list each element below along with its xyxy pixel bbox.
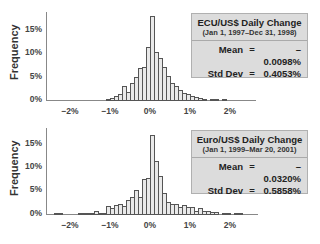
y-tick-15: 15% — [16, 24, 42, 34]
y-tick-10: 10% — [16, 161, 42, 171]
x-tick-2: 2% — [215, 220, 245, 230]
euro-histogram-panel: Frequency 15% 10% 5% 0% −2% −1% 0% 1% 2%… — [0, 116, 320, 238]
histogram-bar — [202, 99, 207, 102]
stddev-row: Std Dev = 0.4053% — [198, 68, 301, 80]
stats-legend: ECU/US$ Daily Change (Jan 1, 1997–Dec 31… — [191, 13, 308, 78]
x-tick-0: 0% — [135, 106, 165, 116]
equals-sign: = — [243, 68, 261, 80]
equals-sign: = — [243, 185, 261, 197]
mean-value: – 0.0320% — [261, 161, 301, 185]
stddev-label: Std Dev — [199, 68, 243, 80]
mean-label: Mean — [199, 161, 243, 185]
histogram-bar — [58, 213, 63, 216]
x-tick-1: 1% — [175, 220, 205, 230]
ecu-histogram-panel: Frequency 15% 10% 5% 0% −2% −1% 0% 1% 2%… — [0, 0, 320, 122]
mean-row: Mean = – 0.0320% — [198, 161, 301, 185]
x-tick-0: 0% — [135, 220, 165, 230]
stddev-row: Std Dev = 0.5858% — [198, 185, 301, 197]
mean-row: Mean = – 0.0098% — [198, 44, 301, 68]
histogram-bar — [226, 213, 231, 216]
y-tick-0: 0% — [16, 94, 42, 104]
x-tick-2: 2% — [215, 106, 245, 116]
histogram-bar — [238, 213, 243, 216]
y-tick-5: 5% — [16, 71, 42, 81]
equals-sign: = — [243, 161, 261, 185]
legend-title: ECU/US$ Daily Change — [192, 17, 307, 28]
histogram-bar — [214, 212, 219, 215]
x-tick-neg2: −2% — [55, 220, 85, 230]
stddev-label: Std Dev — [199, 185, 243, 197]
y-axis — [46, 128, 47, 215]
x-tick-neg2: −2% — [55, 106, 85, 116]
stddev-value: 0.4053% — [261, 68, 301, 80]
y-tick-5: 5% — [16, 184, 42, 194]
x-tick-neg1: −1% — [95, 106, 125, 116]
y-tick-0: 0% — [16, 208, 42, 218]
histogram-bar — [214, 99, 219, 102]
x-tick-neg1: −1% — [95, 220, 125, 230]
stddev-value: 0.5858% — [261, 185, 301, 197]
y-axis — [46, 12, 47, 101]
y-tick-15: 15% — [16, 138, 42, 148]
histogram-bar — [222, 99, 227, 102]
legend-title: Euro/US$ Daily Change — [192, 134, 307, 145]
mean-label: Mean — [199, 44, 243, 68]
legend-date-range: (Jan 1, 1999–Mar 20, 2001) — [192, 145, 307, 154]
x-tick-1: 1% — [175, 106, 205, 116]
equals-sign: = — [243, 44, 261, 68]
stats-legend: Euro/US$ Daily Change (Jan 1, 1999–Mar 2… — [191, 130, 308, 194]
y-tick-10: 10% — [16, 47, 42, 57]
mean-value: – 0.0098% — [261, 44, 301, 68]
legend-date-range: (Jan 1, 1997–Dec 31, 1998) — [192, 28, 307, 37]
